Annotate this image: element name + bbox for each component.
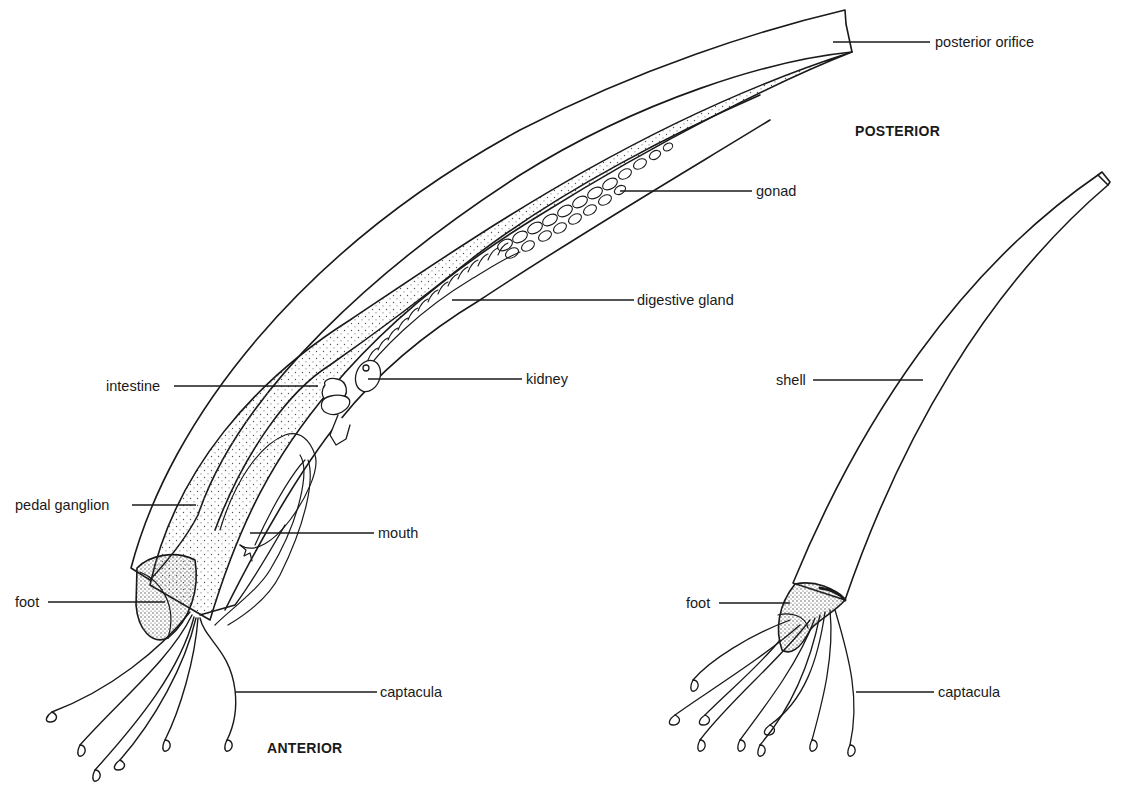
scaphopod-diagram: posterior orifice POSTERIOR gonad digest… [0,0,1132,801]
label-kidney: kidney [526,372,568,387]
left-figure-internal-anatomy [46,10,852,781]
heading-anterior: ANTERIOR [267,741,343,755]
label-foot-left: foot [15,595,39,610]
captacula-right-drawing [669,610,855,756]
label-foot-right: foot [686,596,710,611]
label-pedal-ganglion: pedal ganglion [15,498,109,513]
kidney-shape [351,357,384,395]
label-captacula-left: captacula [380,685,442,700]
label-shell: shell [776,373,806,388]
label-mouth: mouth [378,526,418,541]
body-mantle [150,52,852,620]
right-figure-external-view [669,172,1110,756]
label-intestine: intestine [106,379,160,394]
heading-posterior: POSTERIOR [855,124,940,138]
label-digestive-gland: digestive gland [637,293,734,308]
diagram-drawing [0,0,1132,801]
label-captacula-right: captacula [938,685,1000,700]
label-posterior-orifice: posterior orifice [935,35,1034,50]
captacula-left-drawing [46,612,235,781]
shell-outline-right [793,175,1108,600]
label-gonad: gonad [756,184,796,199]
